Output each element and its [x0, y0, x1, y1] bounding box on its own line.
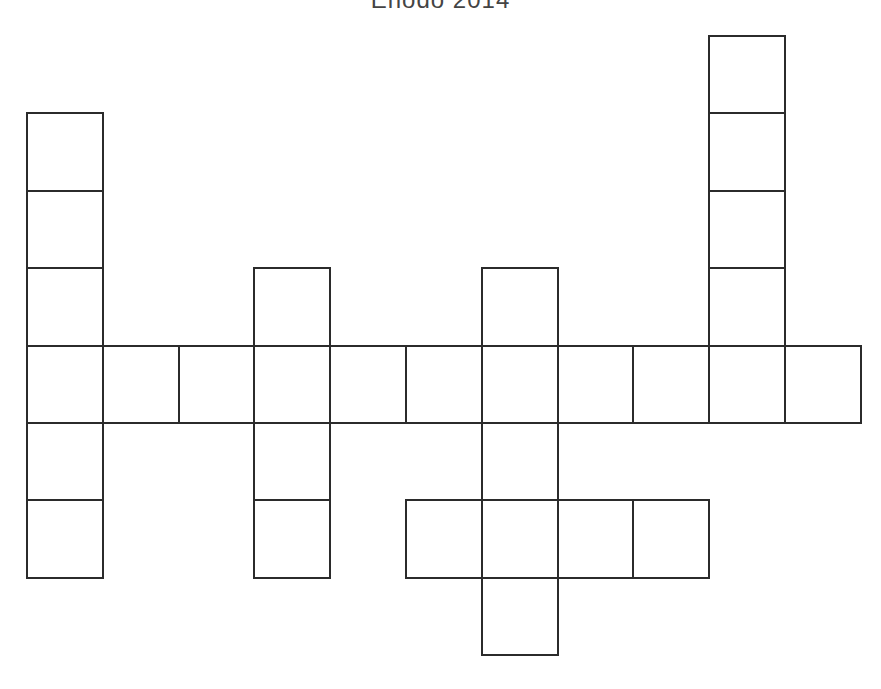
crossword-cell[interactable]	[253, 422, 331, 501]
crossword-cell[interactable]	[26, 190, 104, 269]
crossword-cell[interactable]	[481, 577, 559, 656]
crossword-cell[interactable]	[557, 345, 634, 424]
crossword-cell[interactable]	[557, 499, 634, 579]
crossword-cell[interactable]	[178, 345, 255, 424]
crossword-cell[interactable]	[253, 345, 331, 424]
crossword-cell[interactable]	[708, 35, 786, 114]
crossword-cell[interactable]	[481, 267, 559, 347]
crossword-cell[interactable]	[405, 499, 483, 579]
crossword-cell[interactable]	[481, 345, 559, 424]
crossword-cell[interactable]	[481, 422, 559, 501]
crossword-cell[interactable]	[708, 345, 786, 424]
crossword-cell[interactable]	[26, 499, 104, 579]
crossword-cell[interactable]	[784, 345, 862, 424]
crossword-cell[interactable]	[708, 267, 786, 347]
crossword-cell[interactable]	[632, 345, 710, 424]
crossword-cell[interactable]	[102, 345, 180, 424]
crossword-cell[interactable]	[26, 345, 104, 424]
crossword-cell[interactable]	[481, 499, 559, 579]
crossword-cell[interactable]	[253, 499, 331, 579]
crossword-cell[interactable]	[405, 345, 483, 424]
crossword-cell[interactable]	[329, 345, 407, 424]
crossword-cell[interactable]	[708, 190, 786, 269]
crossword-cell[interactable]	[632, 499, 710, 579]
crossword-cell[interactable]	[26, 112, 104, 192]
crossword-cell[interactable]	[708, 112, 786, 192]
crossword-cell[interactable]	[26, 422, 104, 501]
puzzle-title: Enodo 2014	[0, 0, 881, 14]
crossword-cell[interactable]	[26, 267, 104, 347]
crossword-cell[interactable]	[253, 267, 331, 347]
